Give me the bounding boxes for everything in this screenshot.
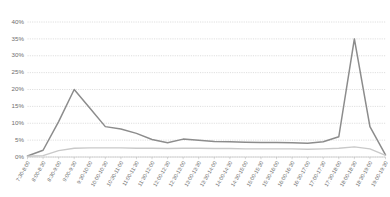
y-tick-label: 20% (12, 85, 25, 92)
y-axis-labels: 0%5%10%15%20%25%30%35%40% (12, 18, 25, 160)
chart-canvas: 0%5%10%15%20%25%30%35%40%7:30-8:008:00-8… (0, 0, 390, 197)
y-tick-label: 0% (15, 153, 24, 160)
line-chart: 0%5%10%15%20%25%30%35%40%7:30-8:008:00-8… (0, 0, 390, 197)
y-tick-label: 40% (12, 18, 25, 25)
x-tick-label: 8:30-9:00 (46, 160, 62, 182)
series-series-primary (28, 39, 386, 156)
x-tick-label: 7:30-8:00 (15, 160, 31, 182)
y-tick-label: 5% (15, 136, 24, 143)
x-tick-label: 8:00-8:30 (30, 160, 46, 182)
y-tick-label: 35% (12, 35, 25, 42)
y-tick-label: 25% (12, 68, 25, 75)
series-series-secondary (28, 147, 386, 156)
y-tick-label: 30% (12, 51, 25, 58)
x-axis-labels: 7:30-8:008:00-8:308:30-9:009:00-9:309:30… (15, 160, 389, 188)
y-tick-label: 10% (12, 119, 25, 126)
series-group (28, 39, 386, 156)
gridlines (28, 22, 386, 157)
x-tick-label: 9:00-9:30 (61, 160, 77, 182)
y-tick-label: 15% (12, 102, 25, 109)
x-axis-ticks (28, 157, 386, 159)
